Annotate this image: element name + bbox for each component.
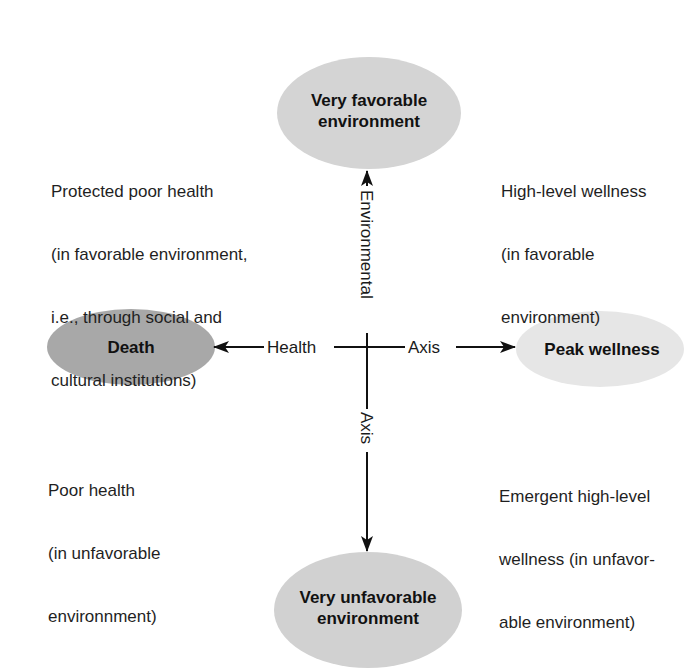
node-label-line2: environment <box>318 112 420 131</box>
axis-label-axis-bottom: Axis <box>357 412 376 444</box>
quadrant-line: (in unfavorable <box>48 543 160 564</box>
quadrant-line: (in favorable <box>501 244 647 265</box>
quadrant-top-right-text: High-level wellness (in favorable enviro… <box>501 139 647 349</box>
quadrant-line: Poor health <box>48 480 160 501</box>
node-very-favorable-environment: Very favorable environment <box>277 57 461 169</box>
quadrant-line: Protected poor health <box>51 181 248 202</box>
health-axis: Health Axis <box>214 338 515 357</box>
quadrant-line: wellness (in unfavor- <box>499 549 655 570</box>
node-label-line1: Very unfavorable <box>299 588 436 607</box>
quadrant-line: i.e., through social and <box>51 307 248 328</box>
quadrant-line: Emergent high-level <box>499 486 655 507</box>
quadrant-top-left-text: Protected poor health (in favorable envi… <box>51 139 248 412</box>
quadrant-line: able environment) <box>499 612 655 633</box>
node-label-line1: Very favorable <box>311 91 427 110</box>
quadrant-line: High-level wellness <box>501 181 647 202</box>
environmental-axis: Environmental Axis <box>357 171 376 551</box>
quadrant-bottom-left-text: Poor health (in unfavorable environnment… <box>48 438 160 648</box>
axis-label-environmental: Environmental <box>357 190 376 299</box>
quadrant-line: environment) <box>501 307 647 328</box>
node-very-unfavorable-environment: Very unfavorable environment <box>274 552 462 668</box>
axis-label-health: Health <box>267 338 316 357</box>
quadrant-line: cultural institutions) <box>51 370 248 391</box>
axis-label-axis-right: Axis <box>408 338 440 357</box>
quadrant-line: environnment) <box>48 606 160 627</box>
node-label-line2: environment <box>317 609 419 628</box>
quadrant-line: (in favorable environment, <box>51 244 248 265</box>
quadrant-bottom-right-text: Emergent high-level wellness (in unfavor… <box>499 444 655 654</box>
